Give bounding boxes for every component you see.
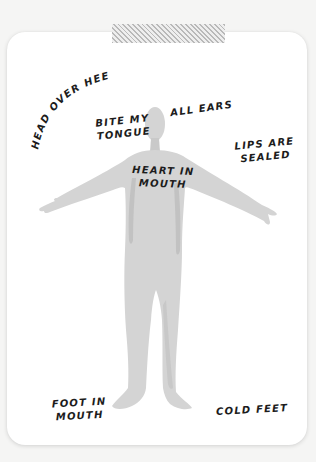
label-lips-are-sealed: LIPS ARE SEALED — [234, 134, 296, 165]
label-head-over-heels: HEAD OVER HEELS — [0, 0, 111, 150]
label-heart-in-mouth: HEART IN MOUTH — [132, 163, 195, 191]
label-line: MOUTH — [132, 176, 195, 191]
svg-text:HEAD OVER HEELS: HEAD OVER HEELS — [0, 0, 111, 150]
curved-label: HEAD OVER HEELS — [0, 0, 316, 462]
label-foot-in-mouth: FOOT IN MOUTH — [51, 395, 107, 424]
